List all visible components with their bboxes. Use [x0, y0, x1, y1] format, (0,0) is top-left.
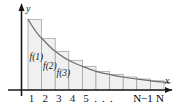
label-f3: f(3)	[57, 68, 71, 79]
x-tick-5: 5	[83, 92, 89, 104]
label-f2: f(2)	[43, 61, 57, 72]
x-tick-ellipsis: . . .	[94, 92, 114, 104]
bar-5	[82, 66, 96, 90]
x-tick-4: 4	[70, 92, 76, 104]
x-axis-label: x	[164, 75, 170, 86]
y-axis-arrowhead	[19, 3, 25, 11]
x-tick-1: 1	[29, 92, 35, 104]
x-tick-n-minus-1: N−1	[133, 92, 153, 104]
figure-canvas: y x 1 2 3 4 5 . . . N−1 N f(1) f(2) f(3)	[0, 0, 182, 112]
label-f1: f(1)	[30, 52, 44, 63]
x-tick-2: 2	[42, 92, 48, 104]
x-tick-3: 3	[56, 92, 62, 104]
x-tick-n: N	[156, 92, 164, 104]
y-axis-label: y	[25, 3, 31, 14]
bar-4	[69, 60, 83, 90]
integral-test-figure: y x 1 2 3 4 5 . . . N−1 N f(1) f(2) f(3)	[0, 0, 182, 112]
x-tick-labels: 1 2 3 4 5 . . . N−1 N	[29, 92, 164, 104]
x-axis-arrowhead	[165, 87, 172, 93]
